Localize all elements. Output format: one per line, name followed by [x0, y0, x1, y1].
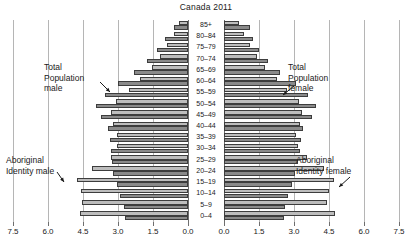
tick-label: 1.5 — [244, 227, 274, 236]
tick-label: 7.5 — [0, 227, 28, 236]
bar-total-male — [157, 48, 189, 52]
bar-total-female — [224, 37, 253, 41]
tick-label: 1.5 — [138, 227, 168, 236]
tick-label: 4.5 — [68, 227, 98, 236]
bar-total-female — [224, 126, 303, 130]
bar-total-female — [224, 138, 301, 142]
annotation-line: female — [288, 83, 328, 94]
tick-mark — [259, 222, 260, 226]
bar-total-male — [111, 149, 188, 153]
bar-total-male — [96, 104, 188, 108]
tick-mark — [83, 222, 84, 226]
age-group-label: 75–79 — [188, 42, 224, 53]
annotation-line: Total — [288, 62, 328, 73]
tick-label: 0.0 — [173, 227, 203, 236]
age-group-label: 35–39 — [188, 132, 224, 143]
tick-mark — [329, 222, 330, 226]
age-group-label: 55–59 — [188, 87, 224, 98]
age-group-label: 45–49 — [188, 110, 224, 121]
bar-total-female — [224, 149, 300, 153]
bar-total-male — [147, 59, 188, 63]
bar-total-female — [224, 216, 284, 220]
pyramid-row: 85+ — [0, 20, 412, 31]
bar-total-male — [134, 70, 188, 74]
tick-mark — [224, 222, 225, 226]
age-group-label: 20–24 — [188, 166, 224, 177]
tick-mark — [13, 222, 14, 226]
pyramid-row: 35–39 — [0, 132, 412, 143]
bar-total-male — [165, 37, 188, 41]
tick-mark — [399, 222, 400, 226]
age-group-label: 65–69 — [188, 65, 224, 76]
pyramid-row: 50–54 — [0, 99, 412, 110]
bar-total-male — [117, 182, 188, 186]
bar-total-male — [124, 205, 188, 209]
pyramid-row: 15–19 — [0, 177, 412, 188]
bar-total-female — [224, 59, 268, 63]
annotation-line: Population — [44, 73, 84, 84]
bar-total-female — [224, 25, 250, 29]
tick-mark — [48, 222, 49, 226]
bar-total-female — [224, 205, 285, 209]
age-group-label: 70–74 — [188, 54, 224, 65]
annotation-line: Population — [288, 73, 328, 84]
bar-total-male — [105, 93, 188, 97]
bar-total-male — [108, 126, 189, 130]
pyramid-row: 5–9 — [0, 200, 412, 211]
pyramid-row: 40–44 — [0, 121, 412, 132]
annotation-line: male — [44, 83, 84, 94]
age-group-label: 10–14 — [188, 188, 224, 199]
pyramid-row: 75–79 — [0, 42, 412, 53]
pyramid-row: 10–14 — [0, 188, 412, 199]
bar-total-male — [174, 25, 188, 29]
tick-mark — [188, 222, 189, 226]
annotation-line: Identity female — [296, 166, 351, 177]
bar-total-female — [224, 104, 316, 108]
pyramid-row: 0–4 — [0, 211, 412, 222]
bar-total-female — [224, 171, 295, 175]
tick-mark — [153, 222, 154, 226]
bar-total-male — [113, 171, 188, 175]
annotation-total-population-female: Total Population female — [288, 62, 328, 94]
tick-label: 3.0 — [279, 227, 309, 236]
bar-total-male — [112, 160, 188, 164]
bar-total-female — [224, 81, 296, 85]
bar-total-female — [224, 115, 312, 119]
age-group-label: 25–29 — [188, 155, 224, 166]
annotation-line: Identity male — [6, 166, 54, 177]
age-group-label: 85+ — [188, 20, 224, 31]
tick-label: 4.5 — [314, 227, 344, 236]
bar-total-male — [118, 81, 188, 85]
tick-label: 0.0 — [209, 227, 239, 236]
bar-total-male — [101, 115, 189, 119]
age-group-label: 60–64 — [188, 76, 224, 87]
tick-label: 7.5 — [384, 227, 412, 236]
x-axis-ticks: 0.00.01.51.53.03.04.54.56.06.07.57.5 — [0, 222, 412, 248]
bar-total-male — [125, 216, 188, 220]
annotation-line: Aboriginal — [6, 155, 54, 166]
chart-title: Canada 2011 — [0, 2, 412, 12]
age-group-label: 0–4 — [188, 211, 224, 222]
annotation-line: Aboriginal — [296, 155, 351, 166]
age-group-label: 30–34 — [188, 143, 224, 154]
annotation-aboriginal-identity-male: Aboriginal Identity male — [6, 155, 54, 176]
bar-total-male — [110, 138, 188, 142]
age-group-label: 80–84 — [188, 31, 224, 42]
annotation-aboriginal-identity-female: Aboriginal Identity female — [296, 155, 351, 176]
tick-mark — [118, 222, 119, 226]
bar-total-female — [224, 70, 280, 74]
annotation-line: Total — [44, 62, 84, 73]
bar-total-female — [224, 182, 292, 186]
bar-total-male — [120, 194, 188, 198]
tick-label: 6.0 — [349, 227, 379, 236]
pyramid-row: 80–84 — [0, 31, 412, 42]
pyramid-row: 45–49 — [0, 110, 412, 121]
age-group-label: 50–54 — [188, 99, 224, 110]
plot-area: 0–45–910–1415–1920–2425–2930–3435–3940–4… — [0, 20, 412, 222]
bar-total-female — [224, 160, 298, 164]
age-group-label: 5–9 — [188, 200, 224, 211]
age-group-label: 40–44 — [188, 121, 224, 132]
pyramid-row: 30–34 — [0, 143, 412, 154]
population-pyramid-chart: Canada 2011 0–45–910–1415–1920–2425–2930… — [0, 0, 412, 248]
tick-label: 6.0 — [33, 227, 63, 236]
